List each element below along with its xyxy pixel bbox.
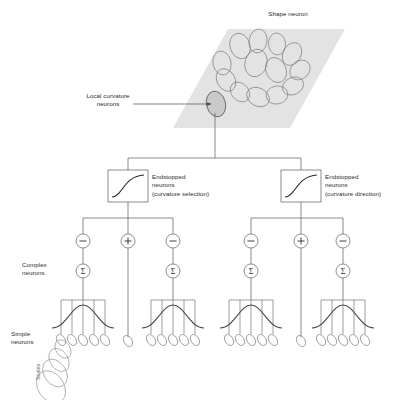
- svg-text:Σ: Σ: [81, 267, 86, 276]
- right-branch-sign-minus-1: [244, 234, 258, 264]
- left-branch-sign-plus: [121, 234, 135, 337]
- shape-plane: [173, 29, 345, 128]
- diagram-canvas: Σ Σ: [0, 0, 398, 400]
- left-branch-sign-minus-2: [166, 234, 180, 264]
- endstopped-box-left[interactable]: [108, 170, 148, 218]
- simple-group-r2: [294, 334, 307, 348]
- left-branch-sum-2: Σ: [166, 264, 180, 300]
- simple-group-l2: [121, 334, 134, 348]
- shape-plane-group: [173, 28, 345, 128]
- simple-neuron-ellipses: [144, 333, 201, 347]
- local-curvature-neurons-label: Local curvature neurons: [78, 92, 138, 109]
- right-branch-sign-plus: [294, 234, 308, 337]
- simple-group-l3: [142, 300, 204, 347]
- svg-text:Σ: Σ: [249, 267, 254, 276]
- scales-label: Scales: [35, 364, 41, 380]
- svg-text:Σ: Σ: [171, 267, 176, 276]
- complex-neurons-label: Complex neurons: [22, 261, 66, 278]
- right-branch-sum-1: Σ: [244, 264, 258, 300]
- svg-text:Σ: Σ: [341, 267, 346, 276]
- shape-neuron-label: Shape neuron: [248, 10, 328, 18]
- endstopped-left-label: Endstopped neurons (curvature selection): [152, 173, 230, 198]
- simple-group-r1: [220, 300, 282, 347]
- left-branch-sign-minus-1: [76, 234, 90, 264]
- endstopped-right-label: Endstopped neurons (curvature direction): [325, 173, 398, 198]
- right-branch-sign-minus-2: [336, 234, 350, 264]
- figure-root: Σ Σ: [0, 0, 398, 400]
- right-branch-sum-2: Σ: [336, 264, 350, 300]
- simple-group-r3: [312, 300, 374, 347]
- right-branch-fanout: [251, 218, 343, 234]
- left-branch-sum-1: Σ: [76, 264, 90, 300]
- simple-neurons-label: Simple neurons: [11, 330, 55, 347]
- simple-neuron-ellipses: [222, 333, 279, 347]
- simple-neuron-ellipses: [314, 333, 371, 347]
- endstopped-box-right[interactable]: [281, 170, 321, 218]
- left-branch-fanout: [83, 218, 173, 234]
